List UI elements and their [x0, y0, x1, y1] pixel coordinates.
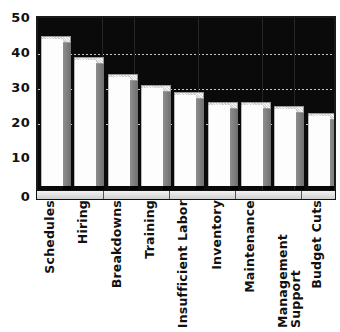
bar-front-face — [308, 116, 330, 186]
y-axis-tick-label: 0 — [0, 190, 30, 203]
bar-side-face — [230, 105, 238, 186]
bar-side-face — [296, 109, 304, 186]
bar-front-face — [274, 109, 296, 186]
bar-front-face — [174, 95, 196, 186]
y-axis-tick-label: 40 — [0, 46, 30, 59]
bar — [141, 88, 163, 194]
bar-series — [38, 18, 334, 194]
baseline-tick — [301, 191, 302, 199]
y-axis-tick-label: 30 — [0, 81, 30, 94]
y-axis-tick-label: 20 — [0, 116, 30, 129]
y-axis: 50 40 30 20 10 0 — [0, 0, 34, 332]
bar-front-face — [74, 60, 96, 186]
bar — [108, 77, 130, 194]
bar-front-face — [141, 88, 163, 186]
x-axis-label-line: Training — [143, 200, 156, 259]
bar — [41, 39, 63, 194]
bar-front-face — [41, 39, 63, 186]
x-axis-category-label: Insufficient Labor — [176, 200, 189, 328]
x-axis-category-label: Schedules — [43, 200, 56, 274]
x-axis-label-line: Insufficient Labor — [176, 200, 189, 328]
bar — [308, 116, 330, 194]
x-axis-label-line: Hiring — [76, 200, 89, 244]
x-axis-label-line: Inventory — [210, 200, 223, 270]
bar — [241, 105, 263, 194]
bar-front-face — [108, 77, 130, 186]
bar-side-face — [163, 88, 171, 186]
bar — [208, 105, 230, 194]
bar-side-face — [96, 60, 104, 186]
axis-baseline — [36, 190, 336, 200]
bar-side-face — [263, 105, 271, 186]
bar — [74, 60, 96, 194]
baseline-tick — [235, 191, 236, 199]
x-axis: SchedulesHiringBreakdownsTrainingInsuffi… — [36, 200, 336, 332]
bar-front-face — [241, 105, 263, 186]
bar — [274, 109, 296, 194]
x-axis-label-line: Schedules — [43, 200, 56, 274]
x-axis-category-label: Hiring — [76, 200, 89, 244]
x-axis-category-label: ManagementSupport — [276, 200, 302, 328]
x-axis-label-line: Support — [289, 200, 302, 328]
x-axis-category-label: Inventory — [210, 200, 223, 270]
bar-chart: 50 40 30 20 10 0 SchedulesHiringBreakdow… — [0, 0, 340, 332]
bar-side-face — [130, 77, 138, 186]
plot-area — [36, 16, 336, 196]
x-axis-category-label: Breakdowns — [110, 200, 123, 288]
bar-side-face — [63, 39, 71, 186]
y-axis-tick-label: 50 — [0, 11, 30, 24]
bar — [174, 95, 196, 194]
x-axis-category-label: Budget Cuts — [310, 200, 323, 289]
x-axis-category-label: Maintenance — [243, 200, 256, 293]
baseline-tick — [103, 191, 104, 199]
baseline-tick — [169, 191, 170, 199]
x-axis-label-line: Maintenance — [243, 200, 256, 293]
x-axis-label-line: Breakdowns — [110, 200, 123, 288]
y-axis-tick-label: 10 — [0, 151, 30, 164]
bar-side-face — [330, 116, 336, 186]
x-axis-label-line: Budget Cuts — [310, 200, 323, 289]
x-axis-category-label: Training — [143, 200, 156, 259]
bar-side-face — [196, 95, 204, 186]
bar-front-face — [208, 105, 230, 186]
